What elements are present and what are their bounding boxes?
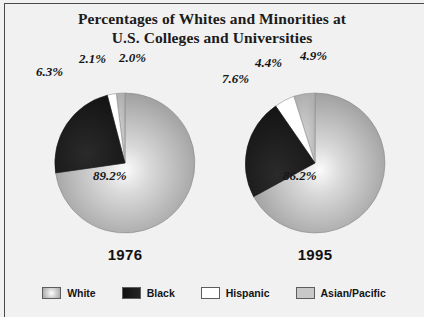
- chart-title: Percentages of Whites and Minorities at …: [0, 9, 424, 47]
- pct-label-black-1976: 6.3%: [36, 64, 63, 80]
- page-rule-left: [4, 3, 5, 317]
- pct-label-white-1976: 89.2%: [93, 168, 127, 184]
- legend-label-asian-pacific: Asian/Pacific: [321, 287, 386, 299]
- legend-swatch-asian-pacific-icon: [296, 287, 315, 299]
- legend-swatch-black-icon: [122, 287, 141, 299]
- legend-item-white: White: [42, 287, 96, 299]
- chart-legend: White Black Hispanic Asian/Pacific: [4, 280, 424, 306]
- legend-label-white: White: [67, 287, 96, 299]
- legend-item-black: Black: [122, 287, 175, 299]
- pie-year-label-1995: 1995: [240, 246, 390, 263]
- pct-label-black-1995: 7.6%: [222, 71, 249, 87]
- chart-title-line-1: Percentages of Whites and Minorities at: [0, 9, 424, 28]
- legend-swatch-white-icon: [42, 287, 61, 299]
- legend-swatch-hispanic-icon: [201, 287, 220, 299]
- pie-svg-1995: [240, 88, 390, 238]
- legend-item-asian-pacific: Asian/Pacific: [296, 287, 386, 299]
- chart-title-line-2: U.S. Colleges and Universities: [0, 28, 424, 47]
- pct-label-white-1995: 86.2%: [283, 168, 317, 184]
- legend-item-hispanic: Hispanic: [201, 287, 270, 299]
- legend-label-black: Black: [147, 287, 175, 299]
- pie-svg-1976: [50, 88, 200, 238]
- pie-chart-1976: [50, 88, 200, 238]
- pct-label-hispanic-1995: 4.4%: [255, 55, 282, 71]
- page-rule-top: [4, 3, 424, 4]
- pct-label-hispanic-1976: 2.1%: [79, 51, 106, 67]
- pie-year-label-1976: 1976: [50, 246, 200, 263]
- pct-label-asian-1995: 4.9%: [300, 48, 327, 64]
- chart-figure: Percentages of Whites and Minorities at …: [0, 0, 424, 317]
- pct-label-asian-1976: 2.0%: [119, 50, 146, 66]
- pie-chart-1995: [240, 88, 390, 238]
- legend-label-hispanic: Hispanic: [226, 287, 270, 299]
